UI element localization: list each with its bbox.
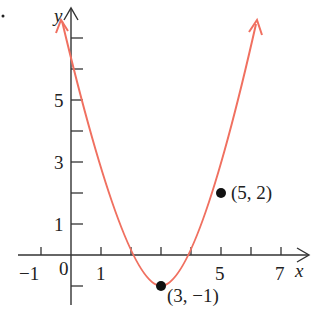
point-vertex-label: (3, −1) (167, 285, 219, 307)
parabola-curve (56, 20, 262, 286)
y-axis-label: y (52, 5, 63, 26)
x-axis-label: x (294, 260, 304, 281)
y-tick-label-5: 5 (54, 90, 64, 111)
chart: y x 0 −1 1 5 7 1 3 5 (3, −1) (5, 2) (0, 0, 318, 316)
point-5-2-label: (5, 2) (231, 182, 272, 204)
point-vertex (156, 281, 166, 291)
point-5-2 (216, 188, 226, 198)
x-tick-label-1: 1 (96, 263, 106, 284)
origin-label: 0 (59, 258, 69, 279)
x-tick-label-7: 7 (275, 263, 285, 284)
y-tick-label-3: 3 (54, 152, 64, 173)
x-tick-label-neg1: −1 (19, 263, 39, 284)
x-tick-label-5: 5 (215, 263, 225, 284)
y-tick-label-1: 1 (54, 214, 64, 235)
stray-mark (2, 15, 5, 18)
